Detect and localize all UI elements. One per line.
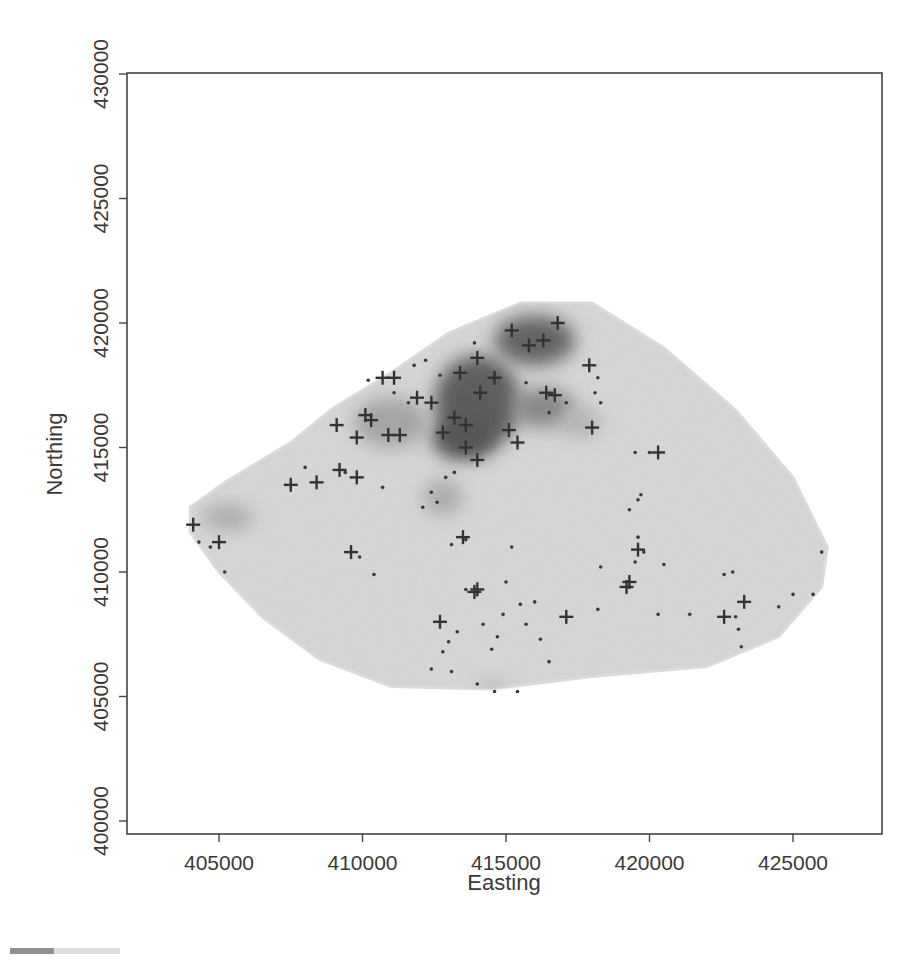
- control-dot: [596, 376, 600, 380]
- control-dot: [639, 493, 643, 497]
- control-dot: [430, 667, 434, 671]
- control-dot: [737, 627, 741, 631]
- y-axis: 4000004050004100004150004200004250004300…: [89, 39, 127, 856]
- figure-caption-fragment: [10, 948, 120, 954]
- y-tick-label: 430000: [89, 39, 112, 109]
- density-surface: [190, 303, 827, 694]
- control-dot: [731, 570, 735, 574]
- control-dot: [599, 565, 603, 569]
- control-dot: [493, 690, 497, 694]
- control-dot: [504, 580, 508, 584]
- control-dot: [464, 538, 468, 542]
- control-dot: [791, 593, 795, 597]
- control-dot: [539, 637, 543, 641]
- control-dot: [740, 645, 744, 649]
- control-dot: [642, 550, 646, 554]
- y-tick-label: 420000: [89, 288, 112, 358]
- control-dot: [441, 650, 445, 654]
- control-dot: [424, 359, 428, 363]
- y-axis-title: Northing: [42, 412, 67, 495]
- density-map-chart: 405000410000415000420000425000 400000405…: [0, 0, 922, 962]
- y-tick-label: 425000: [89, 163, 112, 233]
- control-dot: [435, 500, 439, 504]
- control-dot: [473, 341, 477, 345]
- control-dot: [209, 545, 213, 549]
- control-dot: [496, 635, 500, 639]
- control-dot: [407, 401, 411, 405]
- control-dot: [593, 391, 597, 395]
- control-dot: [547, 660, 551, 664]
- control-dot: [547, 411, 551, 415]
- y-tick-label: 400000: [89, 786, 112, 856]
- control-dot: [481, 622, 485, 626]
- control-dot: [734, 615, 738, 619]
- control-dot: [811, 593, 815, 597]
- control-dot: [464, 588, 468, 592]
- control-dot: [628, 508, 632, 512]
- control-dot: [636, 535, 640, 539]
- control-dot: [501, 613, 505, 617]
- control-dot: [564, 401, 568, 405]
- control-dot: [450, 670, 454, 674]
- control-dot: [648, 451, 652, 455]
- control-dot: [599, 401, 603, 405]
- x-axis: 405000410000415000420000425000: [184, 834, 828, 874]
- control-dot: [688, 613, 692, 617]
- control-dot: [455, 630, 459, 634]
- control-dot: [372, 573, 376, 577]
- x-tick-label: 405000: [184, 851, 254, 874]
- x-tick-label: 410000: [327, 851, 397, 874]
- control-dot: [421, 505, 425, 509]
- control-dot: [430, 491, 434, 495]
- control-dot: [516, 690, 520, 694]
- control-dot: [656, 613, 660, 617]
- y-tick-label: 415000: [89, 412, 112, 482]
- control-dot: [392, 391, 396, 395]
- x-axis-title: Easting: [467, 870, 540, 895]
- control-dot: [381, 486, 385, 490]
- control-dot: [633, 451, 637, 455]
- control-dot: [412, 364, 416, 368]
- control-dot: [596, 608, 600, 612]
- control-dot: [820, 550, 824, 554]
- control-dot: [450, 543, 454, 547]
- control-dot: [636, 498, 640, 502]
- control-dot: [447, 640, 451, 644]
- control-dot: [343, 471, 347, 475]
- y-tick-label: 410000: [89, 537, 112, 607]
- control-dot: [476, 682, 480, 686]
- control-dot: [197, 540, 201, 544]
- x-tick-label: 420000: [614, 851, 684, 874]
- control-dot: [519, 603, 523, 607]
- control-dot: [662, 563, 666, 567]
- control-dot: [490, 647, 494, 651]
- control-dot: [524, 381, 528, 385]
- control-dot: [777, 605, 781, 609]
- control-dot: [722, 573, 726, 577]
- control-dot: [633, 560, 637, 564]
- control-dot: [366, 378, 370, 382]
- control-dot: [444, 476, 448, 480]
- control-dot: [303, 466, 307, 470]
- pixel-texture: [190, 303, 827, 689]
- control-dot: [453, 471, 457, 475]
- control-dot: [438, 373, 442, 377]
- control-dot: [524, 622, 528, 626]
- y-tick-label: 405000: [89, 661, 112, 731]
- control-dot: [510, 545, 514, 549]
- control-dot: [533, 600, 537, 604]
- x-tick-label: 425000: [758, 851, 828, 874]
- control-dot: [223, 570, 227, 574]
- control-dot: [358, 555, 362, 559]
